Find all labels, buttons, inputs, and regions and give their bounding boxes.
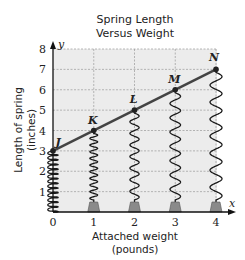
x-axis-variable: x	[229, 197, 236, 210]
weight-icon	[169, 202, 181, 212]
point-l	[132, 107, 138, 113]
x-tick-label: 2	[131, 216, 138, 229]
chart-title: Spring Length Versus Weight	[96, 13, 175, 40]
x-axis-label: Attached weight (pounds)	[92, 230, 178, 255]
point-label-m: M	[167, 73, 181, 86]
point-j	[50, 148, 56, 154]
y-tick-label: 8	[39, 43, 46, 56]
y-axis-label-line-1: Length of spring	[12, 87, 24, 173]
point-n	[213, 67, 219, 73]
weight-icon	[129, 202, 141, 212]
y-tick-label: 4	[39, 125, 46, 138]
y-tick-label: 3	[39, 145, 46, 158]
weight-icon	[88, 202, 100, 212]
chart-title-line-2: Versus Weight	[96, 27, 175, 40]
x-axis-label-line-1: Attached weight	[92, 230, 178, 242]
y-tick-label: 2	[39, 165, 46, 178]
chart-title-line-1: Spring Length	[97, 13, 174, 26]
x-tick-label: 0	[50, 216, 57, 229]
y-axis-label: Length of spring (inches)	[12, 87, 37, 173]
y-tick-label: 5	[39, 104, 46, 117]
point-k	[91, 128, 97, 134]
point-label-k: K	[87, 114, 98, 127]
spring-length-chart: Spring Length Versus Weight xy 012341234…	[0, 0, 245, 260]
point-label-j: J	[53, 136, 61, 149]
y-axis-arrow-icon	[50, 41, 56, 49]
x-axis-label-line-2: (pounds)	[112, 243, 159, 255]
y-tick-label: 7	[39, 63, 46, 76]
point-label-l: L	[129, 93, 138, 106]
point-label-n: N	[208, 51, 220, 64]
x-tick-label: 4	[213, 216, 220, 229]
y-axis-label-line-2: (inches)	[25, 109, 37, 151]
point-m	[172, 87, 178, 93]
y-tick-label: 6	[39, 84, 46, 97]
x-tick-label: 3	[172, 216, 179, 229]
y-axis-variable: y	[57, 38, 65, 51]
y-tick-label: 1	[39, 186, 46, 199]
weight-icon	[210, 202, 222, 212]
x-tick-label: 1	[90, 216, 97, 229]
